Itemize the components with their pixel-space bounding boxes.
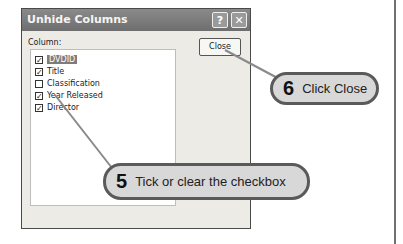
callout-step-5: 5 Tick or clear the checkbox [103,163,310,200]
callout-step-6: 6 Click Close [270,72,379,105]
step-number: 5 [116,170,127,193]
callout-leader-lines [0,0,403,244]
step-text: Tick or clear the checkbox [135,174,286,189]
step-text: Click Close [302,81,367,96]
step-number: 6 [283,77,294,100]
